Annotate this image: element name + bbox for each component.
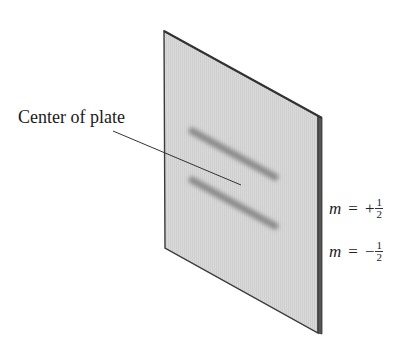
- detector-plate-diagram: [0, 0, 415, 352]
- denominator: 2: [376, 252, 382, 263]
- equals-sign: =: [348, 199, 358, 219]
- m-variable: m: [329, 242, 341, 262]
- equals-sign: =: [348, 242, 358, 262]
- sign: +: [365, 199, 375, 219]
- fraction: 1 2: [375, 240, 383, 263]
- sign: −: [365, 242, 375, 262]
- m-variable: m: [329, 199, 341, 219]
- center-of-plate-label: Center of plate: [18, 107, 125, 128]
- fraction: 1 2: [375, 197, 383, 220]
- plate-edge: [318, 116, 322, 334]
- denominator: 2: [376, 209, 382, 220]
- beam-label-plus-half: m = + 1 2: [329, 197, 383, 220]
- detector-plate: [164, 31, 318, 333]
- beam-label-minus-half: m = − 1 2: [329, 240, 383, 263]
